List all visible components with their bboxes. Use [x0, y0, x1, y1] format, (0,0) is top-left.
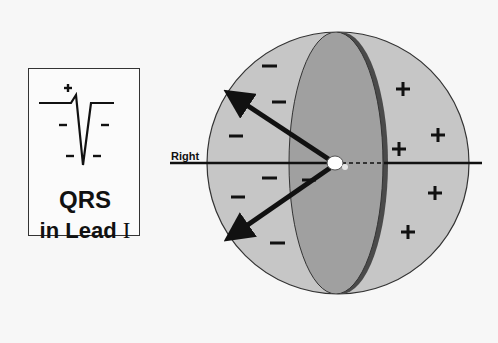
diagram-stage: QRS in Lead I [0, 0, 498, 343]
origin-node [327, 156, 343, 170]
heart-sphere-diagram [0, 0, 498, 343]
right-axis-label: Right [171, 150, 199, 162]
